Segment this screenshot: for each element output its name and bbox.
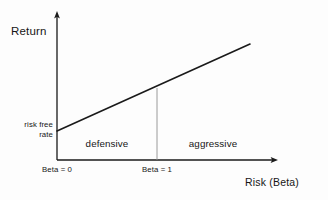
diagram-canvas: Return risk free rate defensive aggressi… <box>0 0 328 200</box>
security-market-line <box>57 44 250 131</box>
region-label-aggressive: aggressive <box>170 138 256 150</box>
x-axis-title: Risk (Beta) <box>222 176 322 188</box>
x-axis-tick-label-beta-zero: Beta = 0 <box>22 165 92 174</box>
x-axis-tick-label-beta-one: Beta = 1 <box>122 165 192 174</box>
risk-free-rate-label: risk free rate <box>0 120 53 139</box>
x-axis <box>57 157 278 163</box>
y-axis-title: Return <box>11 25 47 39</box>
y-axis <box>54 11 60 160</box>
region-label-defensive: defensive <box>67 138 147 150</box>
